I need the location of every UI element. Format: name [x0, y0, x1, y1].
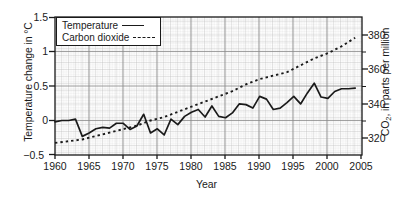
legend-label-carbon-dioxide: Carbon dioxide: [62, 32, 129, 43]
legend-swatch-solid-line-icon: [122, 25, 144, 26]
left-axis-ticks: [49, 18, 55, 155]
legend-item-temperature: Temperature: [62, 20, 144, 31]
legend-item-carbon-dioxide: Carbon dioxide: [62, 32, 155, 43]
legend-label-temperature: Temperature: [62, 20, 118, 31]
legend-swatch-dashed-line-icon: [133, 37, 155, 38]
chart-legend: Temperature Carbon dioxide: [56, 17, 161, 46]
climate-chart: Temperature change in °C CO2, in parts p…: [0, 0, 413, 200]
